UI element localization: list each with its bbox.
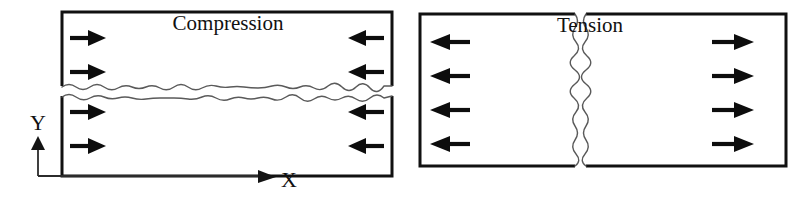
tension-title: Tension <box>557 13 624 37</box>
compression-lower-outline <box>62 96 392 176</box>
x-axis-label: X <box>281 167 297 192</box>
y-axis-arrowhead <box>31 136 45 150</box>
y-axis-label: Y <box>30 110 46 135</box>
compression-panel: Compression <box>62 11 392 176</box>
tension-panel: Tension <box>420 13 786 166</box>
compression-title: Compression <box>173 11 284 35</box>
compression-tension-fracture-figure: Compression <box>0 0 800 203</box>
diagram-canvas: Compression <box>0 0 800 203</box>
